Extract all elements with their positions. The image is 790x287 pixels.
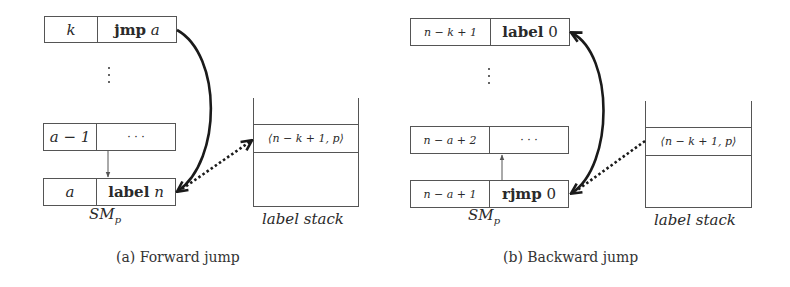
stack-link-dotted: [182, 141, 251, 189]
jump-arrow: [177, 30, 211, 191]
arrows-layer: [0, 0, 790, 287]
stack-link-dotted: [576, 141, 645, 191]
jump-arrow: [572, 33, 604, 193]
